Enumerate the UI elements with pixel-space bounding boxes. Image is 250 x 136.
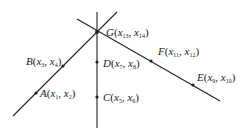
label-point-A: A(x1, x2) bbox=[40, 88, 75, 103]
point-E bbox=[191, 83, 194, 86]
point-F bbox=[149, 59, 152, 62]
label-point-D: D(x7, x8) bbox=[103, 58, 140, 73]
label-point-C: C(x5, x6) bbox=[103, 92, 139, 107]
label-point-G: G(x13, x14) bbox=[106, 27, 149, 42]
point-G bbox=[95, 30, 99, 34]
point-C bbox=[95, 95, 98, 98]
point-D bbox=[95, 60, 98, 63]
point-A bbox=[34, 91, 37, 94]
label-point-B: B(x3, x4) bbox=[26, 56, 61, 71]
point-B bbox=[61, 64, 64, 67]
label-point-F: F(x11, x12) bbox=[158, 46, 199, 61]
label-point-E: E(x9, x10) bbox=[197, 72, 235, 87]
